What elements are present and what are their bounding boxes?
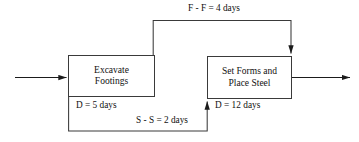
node-setforms-title-line-2: Place Steel [229,78,271,89]
edge-label-finish-to-finish: F - F = 4 days [188,3,240,13]
precedence-diagram: Excavate Footings Set Forms and Place St… [0,0,359,142]
duration-label-set-forms-place-steel: D = 12 days [215,100,260,110]
duration-label-excavate-footings: D = 5 days [76,100,117,110]
edge-finish-to-finish [153,21,291,56]
node-set-forms-place-steel[interactable]: Set Forms and Place Steel [207,56,292,99]
node-excavate-footings[interactable]: Excavate Footings [68,55,155,97]
edge-label-start-to-start: S - S = 2 days [136,115,188,125]
node-excavate-title-line-2: Footings [95,76,128,87]
node-setforms-title-line-1: Set Forms and [222,66,277,77]
node-excavate-title-line-1: Excavate [94,65,129,76]
